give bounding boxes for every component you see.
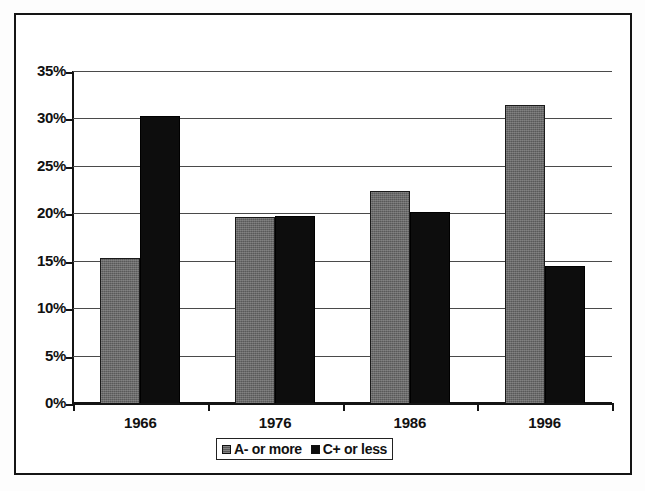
y-tick-label-30: 30% [8,109,66,126]
plot-area [73,72,612,404]
bar-1976-a-or-more [235,217,275,404]
y-tick-label-10: 10% [8,299,66,316]
y-tick-label-35: 35% [8,62,66,79]
bar-1966-c-plus-or-less [140,116,180,404]
bar-1966-a-or-more [100,258,140,404]
x-tick-0 [73,403,75,411]
y-tick-label-0: 0% [8,394,66,411]
x-tick-label-1976: 1976 [215,414,335,431]
x-tick-label-1966: 1966 [80,414,200,431]
legend-label: C+ or less [323,441,387,457]
x-tick-1 [208,403,210,411]
y-tick-label-5: 5% [8,347,66,364]
gridline-35 [73,71,612,72]
x-tick-label-1986: 1986 [350,414,470,431]
legend-swatch-icon-c-plus-or-less [311,445,320,454]
legend-label: A- or more [234,441,302,457]
chart-figure: 0%5%10%15%20%25%30%35% 1966197619861996 … [0,0,645,491]
x-tick-3 [477,403,479,411]
x-tick-label-1996: 1996 [485,414,605,431]
bar-1976-c-plus-or-less [275,216,315,404]
chart-legend: A- or moreC+ or less [216,438,393,460]
legend-swatch-icon-a-or-more [222,445,231,454]
bar-1986-a-or-more [370,191,410,404]
y-tick-label-20: 20% [8,204,66,221]
x-tick-2 [343,403,345,411]
y-tick-label-25: 25% [8,157,66,174]
legend-entry-a-or-more: A- or more [222,441,302,457]
y-tick-label-15: 15% [8,252,66,269]
bar-1996-c-plus-or-less [545,266,585,404]
legend-entry-c-plus-or-less: C+ or less [311,441,387,457]
x-tick-4 [612,403,614,411]
bar-1986-c-plus-or-less [410,212,450,404]
bar-1996-a-or-more [505,105,545,404]
